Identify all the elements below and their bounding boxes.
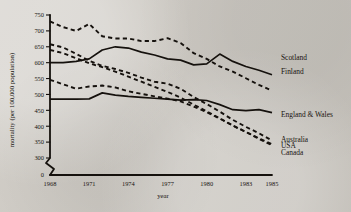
series-line-finland [50, 21, 272, 90]
y-tick-label-group: 0300350400450500550600650700750 [34, 11, 44, 178]
series-line-canada [50, 80, 272, 145]
x-tick-label: 1971 [83, 180, 96, 187]
x-axis-title: year [157, 192, 169, 199]
series-label-scotland: Scotland [281, 53, 307, 62]
x-tick-label: 1968 [44, 180, 57, 187]
y-tick-label: 550 [34, 75, 44, 82]
y-axis-title: mortality (per 100,000 population) [8, 53, 16, 147]
series-line-australia [50, 44, 272, 140]
series-label-finland: Finland [281, 67, 304, 76]
y-tick-label: 500 [34, 91, 44, 98]
x-tick-label: 1974 [122, 180, 136, 187]
x-tick-label: 1980 [200, 180, 213, 187]
y-tick-label: 300 [34, 154, 44, 161]
x-tick-label: 1983 [239, 180, 252, 187]
x-tick-label-group: 1968197119741977198019831985 [44, 180, 279, 187]
y-axis-spine [46, 15, 54, 175]
y-tick-label: 750 [34, 11, 44, 18]
series-label-canada: Canada [281, 148, 304, 157]
line-chart: mortality (per 100,000 population) year … [0, 0, 351, 212]
y-tick-label: 650 [34, 43, 44, 50]
y-tick-label: 600 [34, 59, 44, 66]
y-tick-label: 450 [34, 107, 44, 114]
y-tick-label: 350 [34, 138, 44, 145]
series-label-group: FinlandScotlandEngland & WalesAustraliaU… [281, 53, 333, 156]
y-tick-label: 400 [34, 123, 44, 130]
series-line-scotland [50, 47, 272, 75]
series-path-group [50, 21, 272, 145]
x-tick-label: 1977 [161, 180, 175, 187]
x-tick-label: 1985 [266, 180, 279, 187]
series-label-england-wales: England & Wales [281, 110, 333, 119]
chart-figure: mortality (per 100,000 population) year … [0, 0, 351, 212]
y-tick-label: 0 [41, 171, 44, 178]
series-line-england-wales [50, 93, 272, 113]
y-tick-label: 700 [34, 27, 44, 34]
